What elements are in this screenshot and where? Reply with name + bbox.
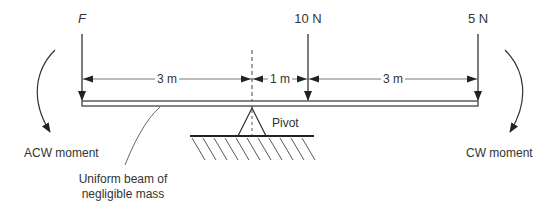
- beam-label-line1: Uniform beam of: [79, 172, 168, 186]
- ground-hatching: [192, 138, 315, 160]
- beam-leader-line: [125, 107, 160, 165]
- cw-moment-label: CW moment: [466, 146, 533, 160]
- force-label-5N: 5 N: [468, 12, 488, 26]
- acw-moment-arrow: [37, 50, 55, 132]
- force-label-F: F: [78, 12, 86, 26]
- force-label-10N: 10 N: [294, 12, 321, 26]
- acw-moment-label: ACW moment: [24, 146, 99, 160]
- beam-label-line2: negligible mass: [82, 187, 165, 201]
- distance-label-2: 1 m: [268, 72, 292, 86]
- cw-moment-arrow: [505, 50, 523, 132]
- distance-label-3: 3 m: [381, 72, 405, 86]
- distance-label-1: 3 m: [155, 72, 179, 86]
- beam: [82, 101, 478, 106]
- pivot-label: Pivot: [272, 116, 299, 130]
